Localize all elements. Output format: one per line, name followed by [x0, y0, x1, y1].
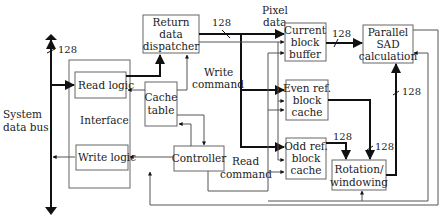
dispatcher-label-2: data — [159, 28, 182, 40]
current-buffer-label-3: buffer — [289, 48, 322, 60]
dispatcher-label-3: dispatcher — [143, 40, 201, 52]
cache-table-label-2: table — [148, 104, 175, 116]
read-command-label-1: Read — [232, 155, 259, 167]
even-cache-label-2: block — [293, 94, 322, 106]
rotation-label-2: windowing — [330, 176, 388, 188]
system-bus-label-1: System — [3, 108, 42, 120]
sad-label-2: SAD — [376, 38, 399, 50]
odd-to-rotation-width: 128 — [333, 131, 352, 142]
interface-label: Interface — [80, 114, 129, 126]
read-command-label-2: command — [220, 168, 272, 180]
rotation-label-1: Rotation/ — [335, 163, 384, 175]
odd-cache-label-1: Odd ref. — [284, 140, 327, 152]
bus-width-label: 128 — [58, 44, 77, 55]
current-to-sad-width: 128 — [332, 28, 351, 39]
pixel-data-label-2: data — [263, 16, 286, 28]
sad-label-1: Parallel — [368, 26, 409, 38]
current-buffer-label-2: block — [291, 36, 320, 48]
bus-down-arrow-icon — [45, 207, 57, 215]
rotation-to-sad-width: 128 — [402, 86, 421, 97]
current-buffer-label-1: Current — [284, 24, 327, 36]
write-logic-label: Write logic — [78, 151, 136, 163]
sad-label-3: calculation — [359, 50, 418, 62]
write-command-label-2: command — [192, 78, 244, 90]
dispatcher-width-label: 128 — [212, 17, 231, 28]
pixel-data-label-1: Pixel — [262, 4, 289, 16]
write-command-label-1: Write — [204, 66, 233, 78]
controller-label: Controller — [172, 152, 228, 164]
odd-cache-label-2: block — [292, 152, 321, 164]
even-to-rotation-width: 128 — [375, 141, 394, 152]
architecture-diagram: 128 System data bus Interface Read logic… — [0, 0, 446, 222]
even-cache-label-3: cache — [292, 106, 323, 118]
cache-table-label-1: Cache — [144, 91, 177, 103]
read-logic-label: Read logic — [78, 79, 134, 91]
system-bus-label-2: data bus — [3, 121, 49, 133]
system-data-bus: 128 System data bus — [3, 34, 77, 215]
even-cache-label-1: Even ref. — [283, 82, 331, 94]
odd-cache-label-3: cache — [291, 164, 322, 176]
dispatcher-label-1: Return — [153, 16, 190, 28]
bus-up-arrow-icon — [45, 34, 57, 40]
